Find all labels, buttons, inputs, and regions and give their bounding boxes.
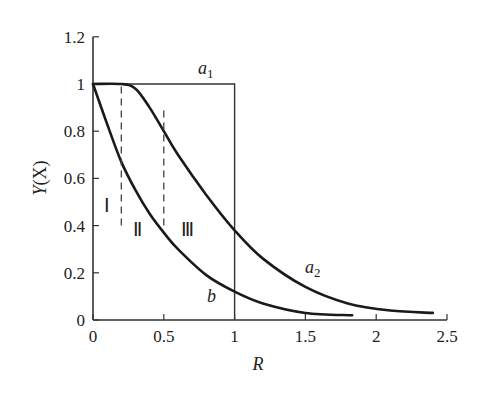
y-tick-label: 1 bbox=[77, 75, 86, 94]
x-tick-label: 2.5 bbox=[436, 327, 457, 346]
y-tick-label: 0 bbox=[77, 311, 86, 330]
y-axis-title: Y(X) bbox=[30, 160, 51, 195]
x-tick-label: 2 bbox=[372, 327, 381, 346]
y-tick-label: 1.2 bbox=[64, 28, 85, 47]
region-label-III: Ⅲ bbox=[181, 219, 194, 240]
plot-area: 00.511.522.500.20.40.60.811.2a1a2bⅠⅡⅢRY(… bbox=[0, 0, 487, 394]
region-label-I: Ⅰ bbox=[104, 195, 110, 216]
y-tick-label: 0.4 bbox=[64, 217, 86, 236]
x-tick-label: 1 bbox=[230, 327, 239, 346]
label-a1: a1 bbox=[198, 58, 214, 81]
y-tick-label: 0.6 bbox=[64, 169, 85, 188]
series-a1 bbox=[93, 84, 235, 320]
x-axis-title: R bbox=[252, 354, 264, 374]
chart-figure: 00.511.522.500.20.40.60.811.2a1a2bⅠⅡⅢRY(… bbox=[0, 0, 487, 394]
label-a2: a2 bbox=[305, 257, 321, 280]
y-tick-label: 0.8 bbox=[64, 122, 85, 141]
x-tick-label: 1.5 bbox=[295, 327, 316, 346]
series-b bbox=[93, 84, 352, 315]
series-a2 bbox=[93, 84, 433, 313]
x-tick-label: 0 bbox=[89, 327, 98, 346]
y-tick-label: 0.2 bbox=[64, 264, 85, 283]
label-b: b bbox=[207, 286, 216, 306]
x-tick-label: 0.5 bbox=[153, 327, 174, 346]
region-label-II: Ⅱ bbox=[133, 219, 142, 240]
